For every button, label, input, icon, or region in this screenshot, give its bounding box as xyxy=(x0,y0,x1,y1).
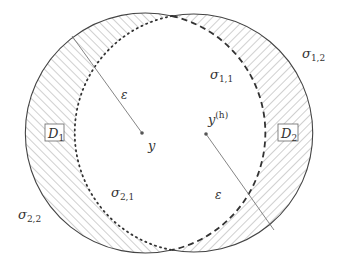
label-sigma-2-2: σ2,2 xyxy=(18,207,41,224)
label-epsilon-left: ε xyxy=(121,88,127,102)
label-epsilon-right: ε xyxy=(215,188,221,202)
label-sigma-1-1: σ1,1 xyxy=(210,67,233,84)
center-point-yh xyxy=(204,132,208,136)
label-sigma-2-1: σ2,1 xyxy=(111,185,134,202)
label-y-h: y(h) xyxy=(207,110,228,127)
center-point-y xyxy=(140,131,144,135)
overlapping-balls-diagram: D1 D2 y y(h) ε ε σ1,2 σ1,1 σ2,1 σ2,2 xyxy=(0,0,345,266)
label-sigma-1-2: σ1,2 xyxy=(302,46,325,63)
label-y: y xyxy=(147,138,156,153)
